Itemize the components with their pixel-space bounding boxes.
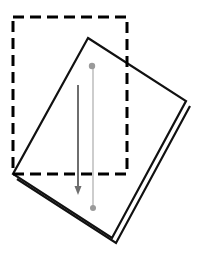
upper-node-dot	[89, 63, 95, 69]
technical-diagram	[0, 0, 198, 253]
figure-canvas	[0, 0, 198, 253]
lower-node-dot	[90, 205, 96, 211]
